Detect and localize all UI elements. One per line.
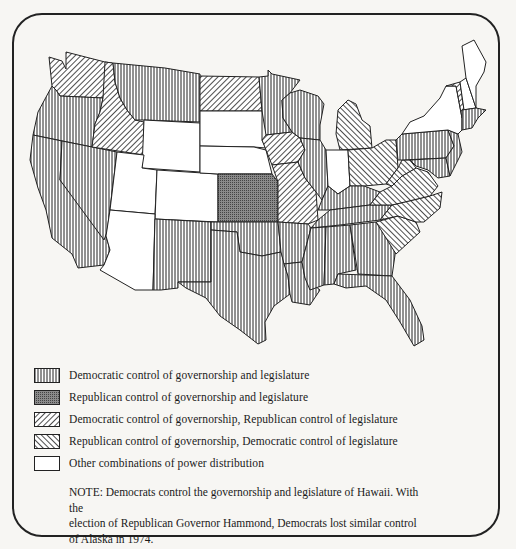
- legend-item-other: Other combinations of power distribution: [34, 452, 398, 474]
- state-florida: [334, 274, 424, 346]
- note-line: of Alaska in 1974.: [69, 532, 429, 548]
- legend-item-dem-both: Democratic control of governorship and l…: [34, 364, 398, 386]
- state-wyoming: [142, 120, 200, 172]
- stipple-swatch-icon: [34, 390, 60, 405]
- legend-label: Republican control of governorship and l…: [69, 391, 308, 403]
- legend-item-rep-gov-dem-leg: Republican control of governorship, Demo…: [34, 430, 398, 452]
- state-pennsylvania: [396, 130, 454, 160]
- map-legend: Democratic control of governorship and l…: [34, 364, 398, 474]
- legend-label: Republican control of governorship, Demo…: [69, 435, 398, 447]
- state-massachusetts: [462, 108, 486, 130]
- state-kansas: [218, 174, 278, 222]
- forward-diagonal-hatch-swatch-icon: [34, 434, 60, 449]
- back-diagonal-hatch-swatch-icon: [34, 412, 60, 427]
- state-washington: [49, 52, 112, 98]
- legend-label: Other combinations of power distribution: [69, 457, 264, 469]
- state-michigan: [336, 100, 372, 150]
- state-south-dakota: [200, 111, 266, 148]
- note-line: election of Republican Governor Hammond,…: [69, 516, 429, 532]
- legend-item-dem-gov-rep-leg: Democratic control of governorship, Repu…: [34, 408, 398, 430]
- state-nebraska: [200, 146, 272, 174]
- legend-label: Democratic control of governorship, Repu…: [69, 413, 398, 425]
- blank-swatch-icon: [34, 456, 60, 471]
- state-north-dakota: [200, 76, 262, 111]
- state-new-york: [402, 86, 462, 134]
- legend-item-rep-both: Republican control of governorship and l…: [34, 386, 398, 408]
- note-line: NOTE: Democrats control the governorship…: [69, 485, 429, 516]
- legend-label: Democratic control of governorship and l…: [69, 369, 309, 381]
- map-note: NOTE: Democrats control the governorship…: [69, 485, 429, 547]
- vertical-hatch-swatch-icon: [34, 368, 60, 383]
- state-colorado: [155, 170, 218, 222]
- us-state-control-map: [0, 0, 516, 360]
- state-new-mexico: [153, 219, 211, 290]
